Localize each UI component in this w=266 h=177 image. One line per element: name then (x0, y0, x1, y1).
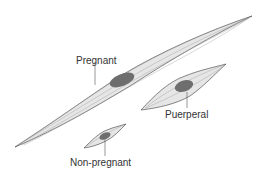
smooth-muscle-cells-diagram (0, 0, 266, 177)
puerperal-label: Puerperal (165, 110, 208, 120)
non-pregnant-cell (84, 124, 126, 156)
pregnant-label: Pregnant (76, 56, 117, 66)
non-pregnant-label: Non-pregnant (70, 158, 131, 168)
pregnant-cell (15, 16, 252, 147)
